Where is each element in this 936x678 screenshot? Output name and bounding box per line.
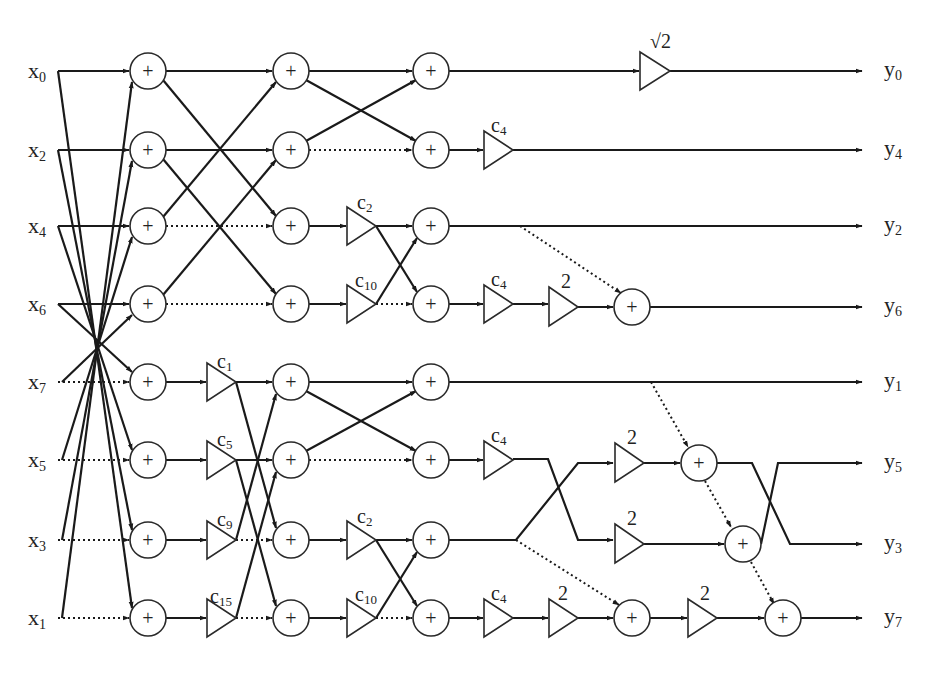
adder-out-r7a: + xyxy=(614,600,650,636)
svg-text:+: + xyxy=(142,449,153,471)
multiplier-c4-row3: c4 xyxy=(484,268,513,323)
multiplier-2-row6: 2 xyxy=(615,507,644,563)
output-label-y6: y6 xyxy=(884,292,902,319)
output-label-y4: y4 xyxy=(884,135,902,162)
input-label-x3: x3 xyxy=(28,527,46,554)
output-label-y5: y5 xyxy=(884,448,902,475)
svg-text:c15: c15 xyxy=(210,585,232,609)
output-label-y0: y0 xyxy=(884,56,902,83)
dct-flow-graph: x0 x2 x4 x6 x7 x5 x3 x1 xyxy=(0,0,936,678)
svg-text:+: + xyxy=(285,529,296,551)
adder-s2-r3: + xyxy=(273,286,309,322)
multiplier-2b-row7: 2 xyxy=(688,582,717,637)
svg-text:+: + xyxy=(626,607,637,629)
svg-text:+: + xyxy=(425,371,436,393)
multiplier-c10-row7: c10 xyxy=(347,583,377,637)
multiplier-c10-row3: c10 xyxy=(347,269,377,323)
multiplier-c9-row6: c9 xyxy=(207,508,236,559)
svg-text:+: + xyxy=(285,215,296,237)
input-label-x6: x6 xyxy=(28,291,46,318)
adder-s1-r7: + xyxy=(130,600,166,636)
svg-text:+: + xyxy=(142,139,153,161)
multiplier-c5-row5: c5 xyxy=(207,428,236,479)
adder-s2-r1: + xyxy=(273,132,309,168)
multiplier-2-row5: 2 xyxy=(615,426,644,482)
svg-text:+: + xyxy=(626,296,637,318)
svg-text:2: 2 xyxy=(558,582,568,604)
svg-text:+: + xyxy=(693,452,704,474)
adder-s1-r2: + xyxy=(130,208,166,244)
multiplier-sqrt2: √2 xyxy=(640,30,671,90)
adder-s3-r5: + xyxy=(413,442,449,478)
input-labels: x0 x2 x4 x6 x7 x5 x3 x1 xyxy=(28,58,46,632)
multiplier-c4-row7: c4 xyxy=(484,582,513,637)
svg-text:+: + xyxy=(142,293,153,315)
svg-text:2: 2 xyxy=(627,507,637,529)
svg-text:+: + xyxy=(425,449,436,471)
adder-s1-r3: + xyxy=(130,286,166,322)
svg-text:+: + xyxy=(142,529,153,551)
adder-s2-r0: + xyxy=(273,53,309,89)
svg-text:√2: √2 xyxy=(650,30,671,52)
multiplier-c2-row2: c2 xyxy=(347,191,376,245)
svg-text:+: + xyxy=(425,139,436,161)
svg-text:c10: c10 xyxy=(355,583,377,607)
svg-text:+: + xyxy=(425,60,436,82)
svg-text:+: + xyxy=(425,529,436,551)
adder-s3-r4: + xyxy=(413,364,449,400)
svg-text:+: + xyxy=(425,293,436,315)
adder-s1-r4: + xyxy=(130,364,166,400)
output-label-y2: y2 xyxy=(884,211,902,238)
adder-out-r3: + xyxy=(614,289,650,325)
svg-text:+: + xyxy=(425,607,436,629)
svg-text:+: + xyxy=(285,607,296,629)
input-label-x0: x0 xyxy=(28,58,46,85)
svg-text:+: + xyxy=(142,371,153,393)
adder-out-r7b: + xyxy=(765,600,801,636)
svg-text:+: + xyxy=(142,607,153,629)
adder-s2-r6: + xyxy=(273,522,309,558)
adder-s2-r7: + xyxy=(273,600,309,636)
svg-text:c4: c4 xyxy=(491,582,507,606)
input-label-x5: x5 xyxy=(28,447,46,474)
input-label-x4: x4 xyxy=(28,213,46,240)
svg-text:c4: c4 xyxy=(491,268,507,292)
multiplier-c4-row1: c4 xyxy=(484,114,513,169)
output-labels: y0 y4 y2 y6 y1 y5 y3 y7 xyxy=(884,56,902,630)
output-label-y3: y3 xyxy=(884,529,902,556)
multiplier-c2-row6: c2 xyxy=(347,505,376,559)
multiplier-c4-row5: c4 xyxy=(484,424,513,479)
svg-text:+: + xyxy=(285,449,296,471)
adder-s1-r1: + xyxy=(130,132,166,168)
svg-text:2: 2 xyxy=(627,426,637,448)
svg-text:c2: c2 xyxy=(357,505,372,529)
adder-s2-r4: + xyxy=(273,364,309,400)
svg-text:c9: c9 xyxy=(217,508,232,532)
adder-s1-r0: + xyxy=(130,53,166,89)
svg-text:+: + xyxy=(285,293,296,315)
adder-out-r6: + xyxy=(725,526,761,562)
adder-s3-r3: + xyxy=(413,286,449,322)
input-label-x2: x2 xyxy=(28,137,46,164)
output-label-y1: y1 xyxy=(884,367,902,394)
adder-s3-r6: + xyxy=(413,522,449,558)
adder-s2-r2: + xyxy=(273,208,309,244)
svg-text:c10: c10 xyxy=(355,269,377,293)
svg-text:c5: c5 xyxy=(217,428,232,452)
svg-text:+: + xyxy=(285,60,296,82)
svg-text:+: + xyxy=(285,371,296,393)
svg-text:+: + xyxy=(777,607,788,629)
svg-text:c2: c2 xyxy=(357,191,372,215)
multiplier-c15-row7: c15 xyxy=(207,585,236,637)
output-wires xyxy=(449,71,862,618)
adder-s3-r7: + xyxy=(413,600,449,636)
svg-text:c4: c4 xyxy=(491,114,507,138)
svg-text:+: + xyxy=(285,139,296,161)
multiplier-c1-row4: c1 xyxy=(207,350,236,401)
adder-s3-r0: + xyxy=(413,53,449,89)
multiplier-2a-row7: 2 xyxy=(549,582,578,637)
svg-text:+: + xyxy=(142,215,153,237)
stage1-wires xyxy=(58,71,132,618)
svg-text:+: + xyxy=(737,533,748,555)
adder-s3-r2: + xyxy=(413,208,449,244)
